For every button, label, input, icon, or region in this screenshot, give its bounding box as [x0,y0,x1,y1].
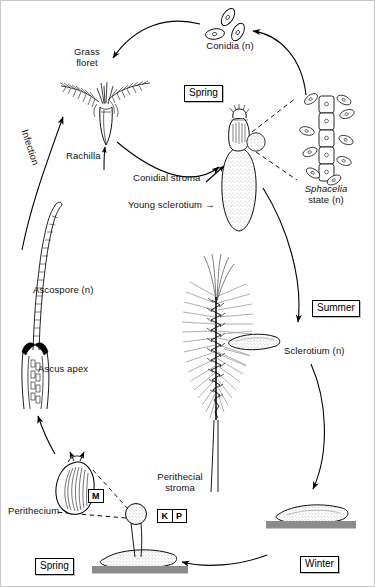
season-box-spring-bottom: Spring [35,558,74,575]
ergot-life-cycle-diagram: Conidia (n) Grass floret Rachilla Infect… [0,0,375,587]
conidia-cluster [205,6,247,43]
label-young-sclerotium: Young sclerotium → [128,199,214,210]
ascus-apex-drawing [22,343,49,409]
label-sclerotium: Sclerotium (n) [284,345,345,356]
grass-floret-drawing [60,81,150,145]
label-sphacelia-state: state (n) [291,194,361,205]
perithecium-drawing [56,452,94,514]
label-rachilla: Rachilla [66,150,101,161]
tag-meiosis: M [88,489,104,503]
arrow-conidial-stroma-pointer [206,166,224,182]
sphacelia-state-drawing [299,91,355,187]
soil-bar-winter [266,521,356,529]
conidial-stroma-drawing [222,104,265,231]
perithecial-stroma-head [126,504,147,525]
rye-ear-drawing [182,254,280,492]
tag-karyogamy-plasmogamy: K P [157,509,187,523]
label-perithecium: Perithecium [8,505,59,516]
soil-bar-spring [92,566,188,574]
label-conidia: Conidia (n) [190,40,270,51]
label-conidial-stroma: Conidial stroma [133,172,201,183]
label-ascospore: Ascospore (n) [33,284,93,295]
winter-sclerotium-drawing [266,505,356,529]
ascospore-drawing [33,202,62,350]
arrow-conidia-to-floret [113,21,200,58]
season-box-summer: Summer [312,300,360,317]
tag-plasmogamy: P [172,510,186,522]
label-grass-floret: Grass floret [56,46,118,68]
arrow-perithecium-to-ascus [38,416,55,454]
arrow-sclerotium-to-winter [311,364,324,489]
arrow-stroma-to-sclerotium [263,188,299,322]
season-box-winter: Winter [300,556,339,573]
tag-karyogamy: K [158,510,172,522]
label-perithecial-stroma: Perithecial stroma [140,471,220,493]
label-sphacelia-genus: Sphacelia [291,183,361,194]
arrow-winter-to-germination [182,555,267,565]
arrow-rachilla-pointer [104,147,105,170]
season-box-spring-top: Spring [184,85,223,102]
label-ascus-apex: Ascus apex [38,363,88,374]
